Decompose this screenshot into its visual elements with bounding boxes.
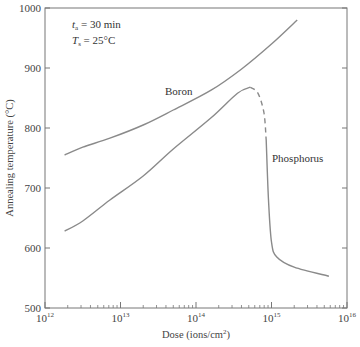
annotation-ts: Ts = 25°C [72,34,115,48]
y-tick-label: 1000 [19,2,42,14]
x-axis-ticks: 10121013101410151016 [36,302,357,324]
y-tick-label: 900 [25,62,42,74]
svg-text:Ts = 25°C: Ts = 25°C [72,34,115,48]
annealing-chart: 5006007008009001000 10121013101410151016… [0,0,360,347]
phosphorus-dashed-segment [250,87,266,140]
y-tick-label: 800 [25,122,42,134]
x-tick-label: 1014 [187,311,206,324]
y-axis-title: Annealing temperature (°C) [4,99,16,217]
phosphorus-label: Phosphorus [272,152,323,164]
y-tick-label: 700 [25,182,42,194]
y-tick-label: 600 [25,242,42,254]
phosphorus-curve [65,87,251,231]
x-tick-label: 1013 [112,311,131,324]
x-tick-label: 1012 [36,311,55,324]
x-tick-label: 1015 [263,311,282,324]
boron-label: Boron [165,85,193,97]
annotation-ta: ta = 30 min [72,18,121,32]
x-axis-title: Dose (ions/cm2) [162,328,230,341]
x-tick-label: 1016 [338,311,357,324]
svg-text:ta = 30 min: ta = 30 min [72,18,121,32]
